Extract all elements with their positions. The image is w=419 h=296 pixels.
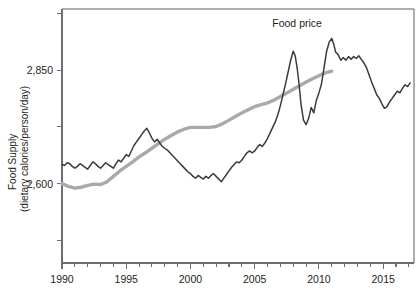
y-axis-title-line2: (dietary calories/person/day) <box>19 86 30 212</box>
annotations: Food price <box>272 17 322 29</box>
x-tick-label: 2015 <box>371 273 395 285</box>
x-tick-label: 2010 <box>307 273 331 285</box>
data-series <box>62 38 410 188</box>
tick-marks <box>57 14 409 269</box>
tick-labels: 2,6002,850199019952000200520102015 <box>27 64 395 285</box>
annotation-food-price: Food price <box>272 17 322 29</box>
axes <box>62 9 414 263</box>
y-axis-title: Food Supply (dietary calories/person/day… <box>7 86 30 212</box>
x-tick-label: 2000 <box>179 273 203 285</box>
x-tick-label: 1995 <box>115 273 139 285</box>
y-tick-label: 2,600 <box>27 178 53 190</box>
y-axis-title-line1: Food Supply <box>7 134 18 190</box>
x-tick-label: 1990 <box>50 273 74 285</box>
series-line-food-supply <box>62 71 332 188</box>
chart-container: Food Supply (dietary calories/person/day… <box>0 0 419 296</box>
x-tick-label: 2005 <box>243 273 267 285</box>
series-line-food-price <box>62 38 410 181</box>
food-price-supply-chart: Food Supply (dietary calories/person/day… <box>0 0 419 296</box>
y-tick-label: 2,850 <box>27 64 53 76</box>
